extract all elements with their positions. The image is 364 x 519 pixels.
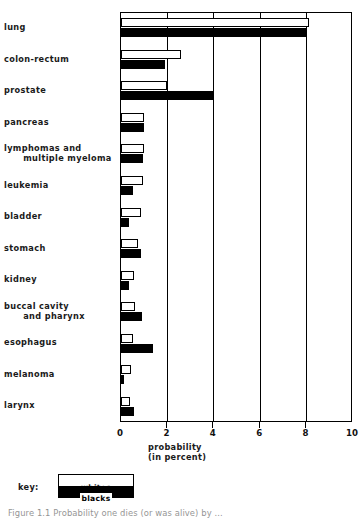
category-label-lymphomas-and: lymphomas and multiple myeloma [4, 144, 112, 163]
plot-area [120, 12, 352, 422]
bar-whites [121, 239, 138, 248]
category-label-colon-rectum: colon-rectum [4, 55, 112, 65]
category-label-line: prostate [4, 86, 112, 96]
bar-group [121, 208, 353, 229]
category-label-prostate: prostate [4, 86, 112, 96]
category-label-kidney: kidney [4, 275, 112, 285]
x-tick-label-2: 2 [163, 428, 169, 438]
x-axis-title-line2: (in percent) [148, 452, 298, 462]
bar-blacks [121, 375, 124, 384]
bar-whites [121, 50, 181, 59]
category-label-line: colon-rectum [4, 55, 112, 65]
bar-whites [121, 334, 133, 343]
bar-group [121, 365, 353, 386]
legend-item-blacks: blacks [59, 486, 133, 497]
bar-whites [121, 144, 144, 153]
bar-group [121, 176, 353, 197]
category-label-leukemia: leukemia [4, 181, 112, 191]
bar-group [121, 18, 353, 39]
x-axis-title-line1: probability [148, 442, 298, 452]
bar-group [121, 50, 353, 71]
bar-whites [121, 208, 141, 217]
bar-group [121, 239, 353, 260]
figure-probability-chart: lungcolon-rectumprostatepancreaslymphoma… [0, 0, 364, 519]
category-label-line: and pharynx [4, 312, 112, 322]
category-label-line: larynx [4, 401, 112, 411]
bar-blacks [121, 123, 144, 132]
category-label-line: lung [4, 23, 112, 33]
category-label-pancreas: pancreas [4, 118, 112, 128]
x-tick-label-0: 0 [117, 428, 123, 438]
bar-blacks [121, 281, 129, 290]
category-label-line: melanoma [4, 370, 112, 380]
legend-label-blacks: blacks [80, 493, 111, 504]
bar-blacks [121, 344, 153, 353]
category-label-lung: lung [4, 23, 112, 33]
bar-blacks [121, 154, 143, 163]
category-label-melanoma: melanoma [4, 370, 112, 380]
x-tick-4 [212, 422, 213, 428]
bar-whites [121, 271, 134, 280]
x-axis-tick-labels: 0246810 [120, 428, 352, 440]
x-axis-title: probability (in percent) [148, 442, 298, 462]
x-tick-6 [259, 422, 260, 428]
bar-blacks [121, 312, 142, 321]
bar-blacks [121, 28, 307, 37]
category-label-line: esophagus [4, 338, 112, 348]
bar-whites [121, 81, 167, 90]
x-tick-2 [166, 422, 167, 428]
legend-item-whites: whites [59, 475, 133, 486]
category-label-esophagus: esophagus [4, 338, 112, 348]
bar-blacks [121, 407, 134, 416]
legend-swatch-box: whites blacks [58, 474, 134, 498]
x-tick-label-8: 8 [303, 428, 309, 438]
figure-caption: Figure 1.1 Probability one dies (or was … [8, 508, 364, 519]
category-label-stomach: stomach [4, 244, 112, 254]
bar-blacks [121, 218, 129, 227]
category-label-line: bladder [4, 212, 112, 222]
bar-whites [121, 302, 135, 311]
x-tick-label-6: 6 [256, 428, 262, 438]
bar-whites [121, 113, 144, 122]
x-tick-label-10: 10 [346, 428, 358, 438]
bar-whites [121, 397, 130, 406]
bar-group [121, 144, 353, 165]
category-label-line: pancreas [4, 118, 112, 128]
bar-whites [121, 176, 143, 185]
bar-group [121, 113, 353, 134]
category-label-larynx: larynx [4, 401, 112, 411]
bar-whites [121, 365, 131, 374]
category-label-bladder: bladder [4, 212, 112, 222]
category-label-line: stomach [4, 244, 112, 254]
bar-group [121, 397, 353, 418]
x-tick-8 [305, 422, 306, 428]
bar-blacks [121, 249, 141, 258]
bar-group [121, 271, 353, 292]
category-label-line: leukemia [4, 181, 112, 191]
bar-blacks [121, 60, 165, 69]
x-tick-label-4: 4 [210, 428, 216, 438]
bar-blacks [121, 91, 214, 100]
category-axis-labels: lungcolon-rectumprostatepancreaslymphoma… [0, 12, 118, 422]
bar-group [121, 81, 353, 102]
legend-caption: key: [18, 482, 39, 492]
bar-blacks [121, 186, 133, 195]
bar-group [121, 334, 353, 355]
category-label-buccal-cavity: buccal cavity and pharynx [4, 302, 112, 321]
category-label-line: kidney [4, 275, 112, 285]
bar-whites [121, 18, 309, 27]
category-label-line: multiple myeloma [4, 154, 112, 164]
bar-group [121, 302, 353, 323]
